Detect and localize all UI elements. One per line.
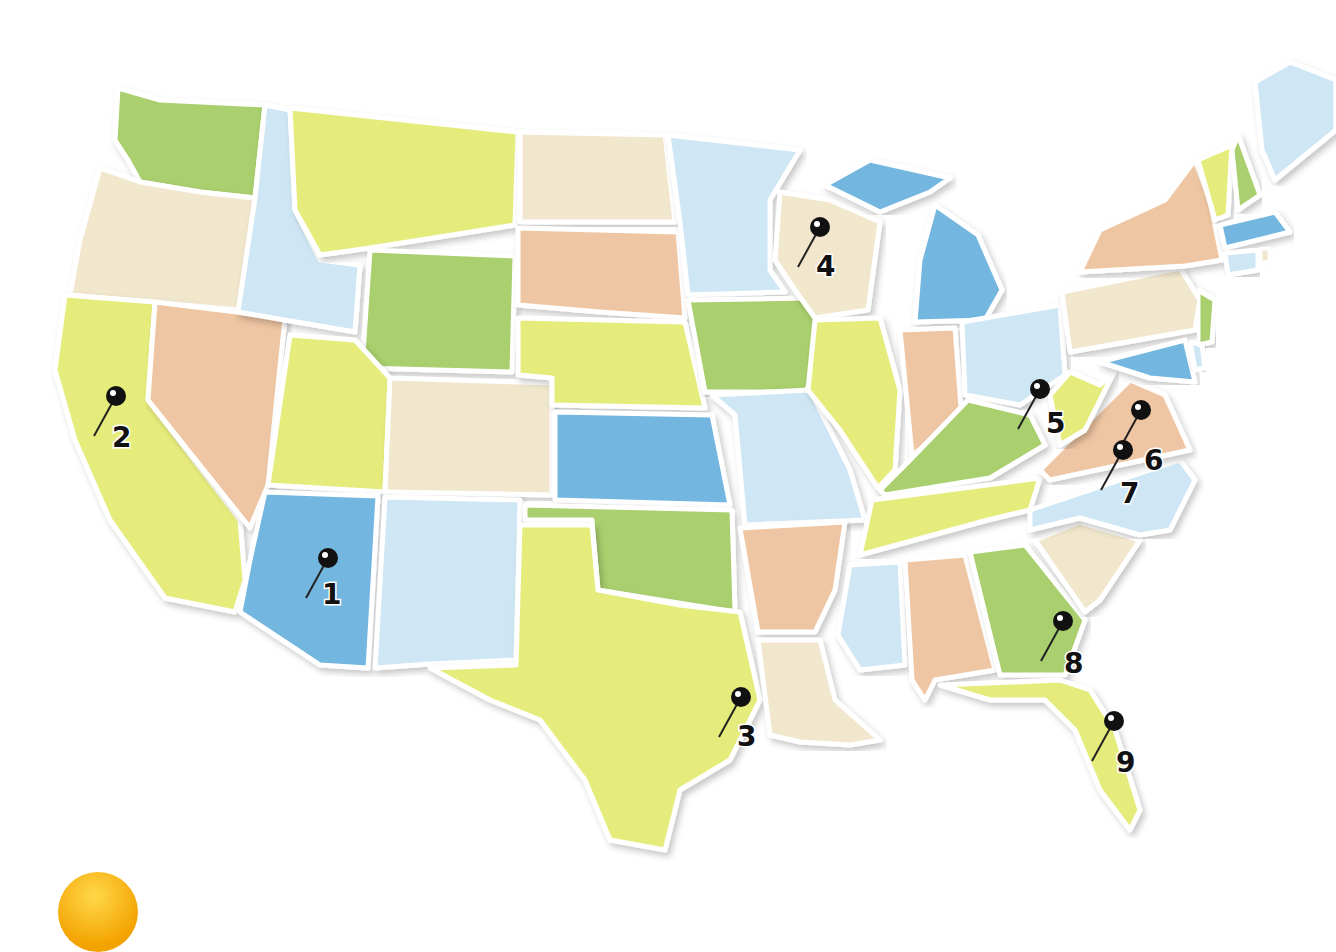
state-connecticut[interactable] [1225,250,1258,275]
state-south-dakota[interactable] [518,228,685,318]
state-florida[interactable] [940,680,1140,830]
state-kansas[interactable] [555,412,730,505]
pin-head-icon [1104,711,1124,731]
pin-label: 4 [816,250,835,283]
pin-head-icon [1030,379,1050,399]
state-michigan[interactable] [915,205,1002,322]
state-montana[interactable] [290,108,518,255]
pin-label: 1 [322,578,341,611]
state-new-jersey[interactable] [1198,290,1215,345]
pin-label: 3 [737,720,756,753]
state-utah[interactable] [268,335,390,492]
state-arizona[interactable] [240,492,378,668]
state-rhode-island[interactable] [1260,248,1270,264]
pin-head-icon [106,386,126,406]
state-massachusetts[interactable] [1220,212,1290,248]
pin-label: 6 [1144,444,1163,477]
state-new-mexico[interactable] [375,497,520,668]
state-arkansas[interactable] [740,522,845,632]
pin-label: 2 [112,421,131,454]
pin-head-icon [1113,440,1133,460]
state-north-dakota[interactable] [520,132,675,222]
pin-head-icon [1131,400,1151,420]
pin-label: 7 [1120,477,1139,510]
decorative-yellow-ball [58,872,138,952]
pin-head-icon [318,548,338,568]
state-maine[interactable] [1255,62,1336,180]
pin-head-icon [1053,611,1073,631]
state-wyoming[interactable] [362,250,515,372]
pin-label: 9 [1116,746,1135,779]
state-new-hampshire[interactable] [1232,135,1260,210]
pin-label: 5 [1046,407,1065,440]
state-delaware[interactable] [1190,342,1205,370]
pin-label: 8 [1064,647,1083,680]
state-colorado[interactable] [385,378,552,495]
pin-head-icon [810,217,830,237]
state-mississippi[interactable] [838,562,905,670]
pin-head-icon [731,687,751,707]
